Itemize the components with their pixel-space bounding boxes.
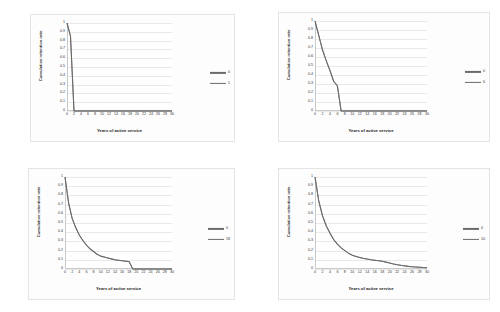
legend-item[interactable]: 6 — [465, 81, 485, 85]
y-tick-label: 0.3 — [58, 240, 63, 244]
y-tick-label: 0.5 — [308, 64, 313, 68]
chart-grid: Cumulative retention rate00.10.20.30.40.… — [0, 0, 500, 312]
x-tick-label: 22 — [142, 113, 146, 117]
curve-layer — [67, 23, 172, 111]
chart-panel-slot-2: Cumulative retention rate00.10.20.30.40.… — [0, 156, 250, 312]
y-tick-label: 0.4 — [308, 230, 313, 234]
legend-label: 18 — [226, 238, 230, 242]
y-tick-label: 0.5 — [58, 221, 63, 225]
legend-label: 1 — [228, 82, 230, 86]
x-axis-title: Years of active service — [315, 287, 427, 291]
legend-item[interactable]: 0 — [463, 227, 485, 231]
series-line — [315, 177, 427, 268]
x-tick-label: 8 — [93, 271, 95, 275]
x-tick-label: 28 — [163, 271, 167, 275]
y-tick-label: 0.9 — [60, 30, 65, 34]
legend-item[interactable]: 18 — [208, 238, 230, 242]
plot-area — [67, 23, 172, 111]
y-tick-label: 0.6 — [308, 212, 313, 216]
x-tick-label: 12 — [107, 113, 111, 117]
x-tick-label: 0 — [64, 271, 66, 275]
x-tick-label: 18 — [380, 271, 384, 275]
x-tick-label: 24 — [149, 113, 153, 117]
x-tick-label: 26 — [410, 113, 414, 117]
legend-label: 0 — [483, 70, 485, 74]
retention-chart-1: Cumulative retention rate00.10.20.30.40.… — [278, 12, 490, 142]
x-tick-label: 4 — [329, 271, 331, 275]
y-tick-label: 0.6 — [308, 55, 313, 59]
y-tick-label: 0.7 — [58, 203, 63, 207]
curve-layer — [315, 21, 427, 111]
x-tick-label: 14 — [365, 271, 369, 275]
series-line — [67, 23, 172, 111]
x-tick-label: 24 — [403, 271, 407, 275]
y-tick-label: 0.9 — [58, 184, 63, 188]
legend-line-swatch — [465, 82, 481, 84]
y-tick-label: 0.6 — [60, 56, 65, 60]
x-tick-label: 4 — [80, 113, 82, 117]
x-tick-label: 6 — [87, 113, 89, 117]
x-tick-label: 0 — [314, 113, 316, 117]
x-tick-label: 2 — [71, 271, 73, 275]
x-tick-label: 6 — [85, 271, 87, 275]
x-tick-label: 0 — [314, 271, 316, 275]
x-tick-label: 12 — [358, 271, 362, 275]
y-tick-label: 0.4 — [58, 230, 63, 234]
x-axis-ticks: 024681012141618202224262830 — [67, 113, 172, 121]
y-tick-label: 0.8 — [60, 39, 65, 43]
x-tick-label: 30 — [170, 113, 174, 117]
y-tick-label: 0.1 — [58, 258, 63, 262]
y-axis-ticks: 00.10.20.30.40.50.60.70.80.91 — [293, 177, 313, 269]
y-tick-label: 1 — [311, 19, 313, 23]
legend-item[interactable]: 0 — [208, 227, 230, 231]
legend-item[interactable]: 1 — [210, 82, 230, 86]
plot-area — [65, 177, 172, 269]
y-tick-label: 0 — [311, 109, 313, 113]
x-tick-label: 18 — [127, 271, 131, 275]
x-tick-label: 0 — [66, 113, 68, 117]
curve-layer — [65, 177, 172, 269]
y-tick-label: 0.3 — [308, 240, 313, 244]
x-tick-label: 6 — [336, 271, 338, 275]
legend-line-swatch — [210, 72, 226, 74]
y-axis-ticks: 00.10.20.30.40.50.60.70.80.91 — [43, 177, 63, 269]
x-tick-label: 20 — [388, 113, 392, 117]
x-tick-label: 4 — [78, 271, 80, 275]
x-tick-label: 20 — [134, 271, 138, 275]
x-tick-label: 30 — [425, 113, 429, 117]
series-line — [315, 177, 427, 268]
legend-label: 6 — [483, 81, 485, 85]
x-tick-label: 4 — [329, 113, 331, 117]
y-tick-label: 0.5 — [60, 65, 65, 69]
y-tick-label: 0.7 — [308, 46, 313, 50]
legend-label: 10 — [481, 238, 485, 242]
x-tick-label: 16 — [373, 113, 377, 117]
plot-area — [315, 177, 427, 269]
x-tick-label: 2 — [321, 113, 323, 117]
x-tick-label: 10 — [100, 113, 104, 117]
legend-item[interactable]: 0 — [210, 71, 230, 75]
x-tick-label: 24 — [403, 113, 407, 117]
y-tick-label: 0.2 — [308, 249, 313, 253]
x-tick-label: 2 — [321, 271, 323, 275]
chart-panel-slot-1: Cumulative retention rate00.10.20.30.40.… — [250, 0, 500, 156]
chart-panel-slot-3: Cumulative retention rate00.10.20.30.40.… — [250, 156, 500, 312]
x-tick-label: 16 — [373, 271, 377, 275]
legend-item[interactable]: 10 — [463, 238, 485, 242]
y-tick-label: 0.2 — [308, 91, 313, 95]
legend-line-swatch — [463, 228, 479, 230]
plot-area — [315, 21, 427, 111]
y-tick-label: 1 — [311, 175, 313, 179]
legend-item[interactable]: 0 — [465, 70, 485, 74]
x-tick-label: 18 — [128, 113, 132, 117]
x-tick-label: 22 — [395, 271, 399, 275]
y-tick-label: 0.8 — [308, 37, 313, 41]
legend-label: 0 — [228, 71, 230, 75]
chart-legend: 06 — [465, 70, 485, 84]
y-tick-label: 0.2 — [60, 92, 65, 96]
chart-legend: 01 — [210, 71, 230, 85]
chart-legend: 018 — [208, 227, 230, 241]
y-tick-label: 0.8 — [58, 194, 63, 198]
legend-line-swatch — [463, 239, 479, 241]
x-tick-label: 16 — [121, 113, 125, 117]
